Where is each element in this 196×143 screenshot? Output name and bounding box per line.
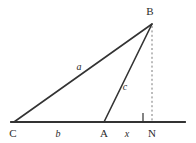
- side-c-segment: [104, 24, 152, 122]
- vertex-label-c: C: [9, 127, 16, 139]
- right-angle-icon: [143, 113, 152, 122]
- vertex-label-n: N: [148, 127, 156, 139]
- vertex-label-b: B: [146, 5, 153, 17]
- side-label-a: a: [77, 61, 82, 72]
- triangle-diagram-svg: B C A N a b c x: [0, 0, 196, 143]
- side-label-c: c: [123, 81, 128, 92]
- geometry-figure: B C A N a b c x: [0, 0, 196, 143]
- side-label-x: x: [124, 128, 130, 139]
- vertex-label-a: A: [100, 127, 108, 139]
- side-a-segment: [14, 24, 152, 122]
- side-label-b: b: [56, 128, 61, 139]
